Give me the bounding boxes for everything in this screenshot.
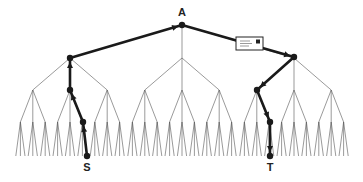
tree-diagram [0, 0, 363, 182]
root-label-a: A [178, 7, 186, 18]
envelope-icon [236, 37, 263, 50]
tree-edges [16, 25, 348, 156]
source-label-s: S [83, 162, 90, 173]
target-label-t: T [267, 162, 274, 173]
